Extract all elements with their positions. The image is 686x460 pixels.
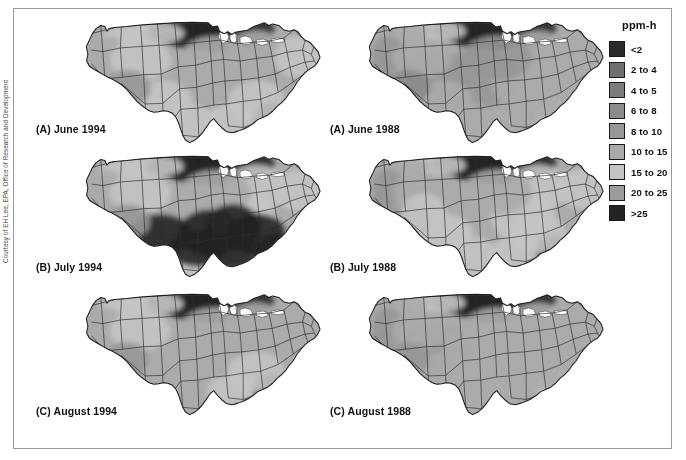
state-border (546, 118, 561, 136)
legend-swatch (609, 62, 625, 78)
figure-root: Courtesy of EH Lee, EPA, Office of Resea… (0, 0, 686, 460)
legend: ppm-h <22 to 44 to 56 to 88 to 1010 to 1… (609, 19, 686, 224)
figure-frame: (A) June 1994(B) July 1994(C) August 199… (13, 8, 672, 449)
us-choropleth-map (76, 15, 334, 151)
legend-label: 6 to 8 (631, 105, 657, 116)
legend-label: 2 to 4 (631, 64, 657, 75)
legend-swatch (609, 205, 625, 221)
state-border (263, 252, 278, 270)
concentration-region (105, 342, 149, 377)
legend-label: 8 to 10 (631, 126, 662, 137)
legend-swatch (609, 123, 625, 139)
concentration-region (490, 375, 534, 403)
concentration-region (378, 92, 416, 121)
concentration-region (378, 226, 416, 255)
legend-item: >25 (609, 203, 686, 224)
map-label-august-1988: (C) August 1988 (330, 405, 411, 417)
map-panel-july-1994 (76, 149, 334, 285)
legend-item: 6 to 8 (609, 101, 686, 122)
legend-item: 20 to 25 (609, 183, 686, 204)
legend-swatch (609, 103, 625, 119)
us-choropleth-map (359, 287, 617, 423)
concentration-region (393, 310, 452, 349)
concentration-region (462, 307, 531, 351)
concentration-region (462, 169, 532, 214)
us-choropleth-map (359, 149, 617, 285)
legend-item: 8 to 10 (609, 121, 686, 142)
map-panel-august-1988 (359, 287, 617, 423)
legend-label: 4 to 5 (631, 85, 657, 96)
state-border (546, 252, 561, 270)
legend-label: 10 to 15 (631, 146, 668, 157)
state-border (546, 390, 561, 408)
legend-swatch (609, 41, 625, 57)
concentration-region (95, 364, 134, 394)
concentration-region (400, 193, 446, 235)
map-label-june-1988: (A) June 1988 (330, 123, 400, 135)
figure-credit: Courtesy of EH Lee, EPA, Office of Resea… (0, 63, 11, 263)
legend-label: <2 (631, 44, 642, 55)
map-label-august-1994: (C) August 1994 (36, 405, 117, 417)
map-label-july-1994: (B) July 1994 (36, 261, 102, 273)
us-choropleth-map (76, 287, 334, 423)
concentration-region (462, 35, 532, 80)
legend-item: 4 to 5 (609, 80, 686, 101)
legend-swatch (609, 82, 625, 98)
legend-item: <2 (609, 39, 686, 60)
concentration-region (95, 227, 135, 257)
map-panel-june-1994 (76, 15, 334, 151)
map-panel-july-1988 (359, 149, 617, 285)
legend-item: 2 to 4 (609, 60, 686, 81)
concentration-region (94, 93, 135, 124)
us-choropleth-map (76, 149, 334, 285)
legend-swatch (609, 144, 625, 160)
legend-swatch (609, 185, 625, 201)
legend-label: 15 to 20 (631, 167, 668, 178)
legend-rows: <22 to 44 to 56 to 88 to 1010 to 1515 to… (609, 39, 686, 224)
map-label-june-1994: (A) June 1994 (36, 123, 106, 135)
legend-item: 15 to 20 (609, 162, 686, 183)
legend-title: ppm-h (622, 19, 686, 31)
legend-label: >25 (631, 208, 648, 219)
map-label-july-1988: (B) July 1988 (330, 261, 396, 273)
map-panel-august-1994 (76, 287, 334, 423)
legend-swatch (609, 164, 625, 180)
state-border (263, 390, 278, 408)
legend-label: 20 to 25 (631, 187, 668, 198)
concentration-region (378, 364, 415, 393)
state-border (263, 118, 278, 136)
legend-item: 10 to 15 (609, 142, 686, 163)
